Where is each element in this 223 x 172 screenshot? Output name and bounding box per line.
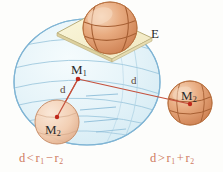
caption-left-r2-subscript: 2 xyxy=(59,157,63,166)
label-m2-outer: M2 xyxy=(181,89,197,102)
label-m2-outer-letter: M xyxy=(181,88,193,103)
top-orange-ball xyxy=(83,2,137,54)
caption-left-r1-subscript: 1 xyxy=(40,157,44,166)
diagram-canvas: M1 M2 M2 E d d d<r1−r2 d>r1+r2 xyxy=(0,0,223,172)
m1-dot xyxy=(76,77,81,82)
caption-left: d<r1−r2 xyxy=(19,151,64,166)
diagram-graphics xyxy=(0,0,223,172)
label-m1-subscript: 1 xyxy=(83,69,87,78)
label-m2-outer-subscript: 2 xyxy=(193,95,197,104)
label-m2-inner-subscript: 2 xyxy=(57,129,61,138)
label-distance-outer: d xyxy=(131,75,137,86)
label-distance-inner: d xyxy=(60,84,66,95)
caption-left-d: d xyxy=(19,151,26,165)
caption-right-r2-subscript: 2 xyxy=(190,157,194,166)
label-m2-inner: M2 xyxy=(45,123,61,136)
label-m1: M1 xyxy=(71,63,87,76)
caption-right-operator: + xyxy=(176,151,186,165)
label-m2-inner-letter: M xyxy=(45,122,57,137)
caption-left-relation: < xyxy=(26,151,36,165)
caption-left-operator: − xyxy=(45,151,55,165)
label-m1-letter: M xyxy=(71,62,83,77)
caption-right: d>r1+r2 xyxy=(150,151,195,166)
m2-inner-dot xyxy=(55,115,59,119)
label-plane-e: E xyxy=(151,27,159,40)
caption-right-d: d xyxy=(150,151,157,165)
caption-right-relation: > xyxy=(157,151,167,165)
caption-right-r1-subscript: 1 xyxy=(171,157,175,166)
